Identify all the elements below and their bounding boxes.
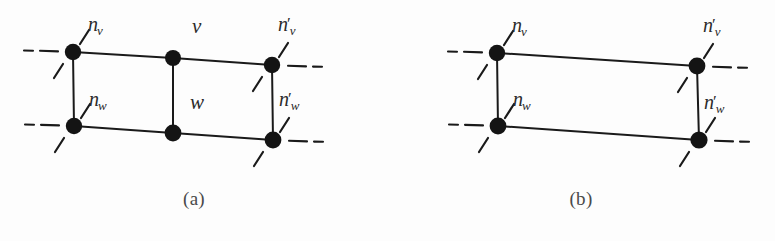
node-bottom-left xyxy=(490,118,507,135)
dash-dot-stub-left-bottom xyxy=(449,125,483,126)
figure-container: nv n′v nw n′w v w (a) xyxy=(0,0,775,241)
caption-a: (a) xyxy=(0,188,388,210)
dash-dot-stub-right-bottom xyxy=(715,141,749,142)
label-n-v-left: nv xyxy=(512,15,527,38)
label-w: w xyxy=(190,92,204,113)
label-n-w-left: nw xyxy=(513,89,531,112)
dash-dot-stub-right-top xyxy=(713,67,747,68)
panel-b: nv n′v nw n′w (b) xyxy=(387,0,775,241)
node-top-left xyxy=(489,45,505,61)
node-top-left xyxy=(65,44,81,60)
dash-dot-stub-left-top xyxy=(24,51,58,52)
panel-a: nv n′v nw n′w v w (a) xyxy=(0,0,388,241)
label-n-w-left: nw xyxy=(89,89,107,112)
label-v: v xyxy=(192,16,201,37)
label-n-v-left: nv xyxy=(88,14,103,37)
node-top-right xyxy=(264,57,280,73)
node-bottom-right xyxy=(690,131,707,148)
label-n-v-prime-right: n′v xyxy=(278,14,296,37)
dash-dot-stub-left-top xyxy=(448,52,482,53)
node-bottom-left xyxy=(66,118,82,134)
dash-dot-stub-left-bottom xyxy=(25,125,59,126)
caption-b: (b) xyxy=(387,188,775,210)
label-n-w-prime-right: n′w xyxy=(279,89,299,112)
node-bottom-right xyxy=(265,132,282,149)
dash-dot-stub-right-top xyxy=(288,66,322,67)
node-top-right xyxy=(689,58,706,75)
label-n-w-prime-right: n′w xyxy=(704,92,724,115)
node-top-middle xyxy=(165,50,181,66)
node-bottom-middle xyxy=(165,125,182,142)
dash-dot-stub-right-bottom xyxy=(289,141,323,142)
label-n-v-prime-right: n′v xyxy=(703,15,721,38)
